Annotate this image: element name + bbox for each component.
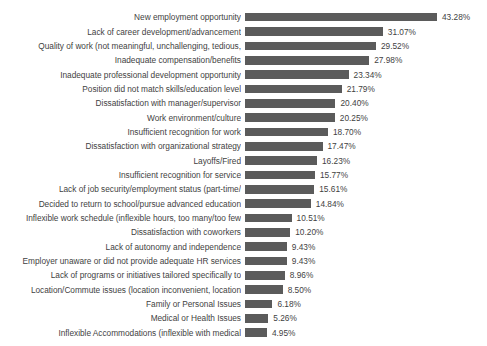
category-label: Dissatisfaction with coworkers	[0, 227, 241, 237]
bar-track: 10.20%	[245, 225, 323, 239]
bar-area: 20.40%	[241, 96, 487, 110]
bar-area: 21.79%	[241, 82, 487, 96]
bar-fill	[245, 70, 349, 79]
bar-value-label: 4.95%	[272, 328, 296, 338]
bar-value-label: 9.43%	[292, 242, 316, 252]
category-label: Dissatisfaction with manager/supervisor	[0, 98, 241, 108]
bar-row: Lack of programs or initiatives tailored…	[0, 268, 487, 282]
category-label: Inadequate professional development oppo…	[0, 70, 241, 80]
category-label: Inadequate compensation/benefits	[0, 55, 241, 65]
bar-fill	[245, 85, 342, 94]
bar-area: 6.18%	[241, 297, 487, 311]
bar-area: 20.25%	[241, 110, 487, 124]
bar-area: 23.34%	[241, 67, 487, 81]
category-label: Medical or Health Issues	[0, 313, 241, 323]
bar-row: Dissatisfaction with manager/supervisor2…	[0, 96, 487, 110]
bar-fill	[245, 199, 311, 208]
bar-row: Insufficient recognition for service15.7…	[0, 168, 487, 182]
bar-value-label: 15.77%	[320, 170, 348, 180]
bar-area: 16.23%	[241, 153, 487, 167]
category-label: Employer unaware or did not provide adeq…	[0, 256, 241, 266]
bar-fill	[245, 242, 287, 251]
bar-value-label: 18.70%	[333, 127, 361, 137]
category-label: Lack of career development/advancement	[0, 27, 241, 37]
bar-row: Location/Commute issues (location inconv…	[0, 283, 487, 297]
bar-value-label: 15.61%	[319, 184, 347, 194]
bar-value-label: 43.28%	[442, 12, 470, 22]
bar-row: Work environment/culture20.25%	[0, 110, 487, 124]
category-label: Position did not match skills/education …	[0, 84, 241, 94]
category-label: Lack of programs or initiatives tailored…	[0, 270, 241, 280]
bar-row: Insufficient recognition for work18.70%	[0, 125, 487, 139]
bar-fill	[245, 128, 328, 137]
bar-area: 15.77%	[241, 168, 487, 182]
bar-value-label: 27.98%	[374, 55, 402, 65]
bar-value-label: 16.23%	[322, 156, 350, 166]
bar-track: 27.98%	[245, 53, 402, 67]
bar-value-label: 10.20%	[295, 227, 323, 237]
bar-track: 15.77%	[245, 168, 348, 182]
bar-row: Medical or Health Issues5.26%	[0, 311, 487, 325]
bar-fill	[245, 285, 283, 294]
bar-area: 29.52%	[241, 39, 487, 53]
bar-value-label: 20.25%	[340, 113, 368, 123]
bar-track: 8.50%	[245, 283, 311, 297]
category-label: Inflexible work schedule (inflexible hou…	[0, 213, 241, 223]
bar-value-label: 21.79%	[347, 84, 375, 94]
bar-value-label: 31.07%	[388, 27, 416, 37]
bar-row: Layoffs/Fired16.23%	[0, 153, 487, 167]
bar-value-label: 23.34%	[354, 70, 382, 80]
bar-track: 4.95%	[245, 326, 295, 340]
bar-row: Inflexible Accommodations (inflexible wi…	[0, 326, 487, 340]
bar-area: 8.96%	[241, 268, 487, 282]
category-label: Layoffs/Fired	[0, 156, 241, 166]
bar-row: Decided to return to school/pursue advan…	[0, 196, 487, 210]
bar-row: Dissatisfaction with coworkers10.20%	[0, 225, 487, 239]
category-label: Location/Commute issues (location inconv…	[0, 285, 241, 295]
bar-fill	[245, 156, 317, 165]
category-label: Quality of work (not meaningful, unchall…	[0, 41, 241, 51]
bar-value-label: 5.26%	[273, 313, 297, 323]
bar-value-label: 20.40%	[340, 98, 368, 108]
bar-fill	[245, 56, 369, 65]
category-label: Work environment/culture	[0, 113, 241, 123]
category-label: Decided to return to school/pursue advan…	[0, 199, 241, 209]
bar-track: 6.18%	[245, 297, 301, 311]
bar-chart: New employment opportunity43.28%Lack of …	[0, 0, 487, 346]
bar-area: 18.70%	[241, 125, 487, 139]
bar-track: 14.84%	[245, 196, 344, 210]
bar-row: Quality of work (not meaningful, unchall…	[0, 39, 487, 53]
bar-track: 17.47%	[245, 139, 356, 153]
bar-fill	[245, 142, 323, 151]
bar-value-label: 6.18%	[277, 299, 301, 309]
bar-row: Position did not match skills/education …	[0, 82, 487, 96]
bar-track: 9.43%	[245, 240, 315, 254]
bar-fill	[245, 99, 335, 108]
bar-row: Inadequate compensation/benefits27.98%	[0, 53, 487, 67]
bar-track: 23.34%	[245, 67, 382, 81]
bar-row: Lack of autonomy and independence9.43%	[0, 240, 487, 254]
category-label: Lack of job security/employment status (…	[0, 184, 241, 194]
bar-track: 31.07%	[245, 24, 416, 38]
bar-area: 43.28%	[241, 10, 487, 24]
bar-fill	[245, 13, 437, 22]
bar-area: 31.07%	[241, 24, 487, 38]
bar-track: 29.52%	[245, 39, 409, 53]
bar-track: 20.40%	[245, 96, 369, 110]
bar-value-label: 10.51%	[297, 213, 325, 223]
bar-track: 18.70%	[245, 125, 361, 139]
bar-area: 5.26%	[241, 311, 487, 325]
bar-area: 17.47%	[241, 139, 487, 153]
bar-area: 14.84%	[241, 196, 487, 210]
bar-row: Family or Personal Issues6.18%	[0, 297, 487, 311]
bar-value-label: 8.50%	[288, 285, 312, 295]
bar-row: Inadequate professional development oppo…	[0, 67, 487, 81]
bar-value-label: 9.43%	[292, 256, 316, 266]
bar-track: 15.61%	[245, 182, 347, 196]
bar-value-label: 29.52%	[381, 41, 409, 51]
bar-area: 10.20%	[241, 225, 487, 239]
bar-area: 8.50%	[241, 283, 487, 297]
bar-row: Inflexible work schedule (inflexible hou…	[0, 211, 487, 225]
bar-area: 9.43%	[241, 254, 487, 268]
bar-track: 43.28%	[245, 10, 470, 24]
